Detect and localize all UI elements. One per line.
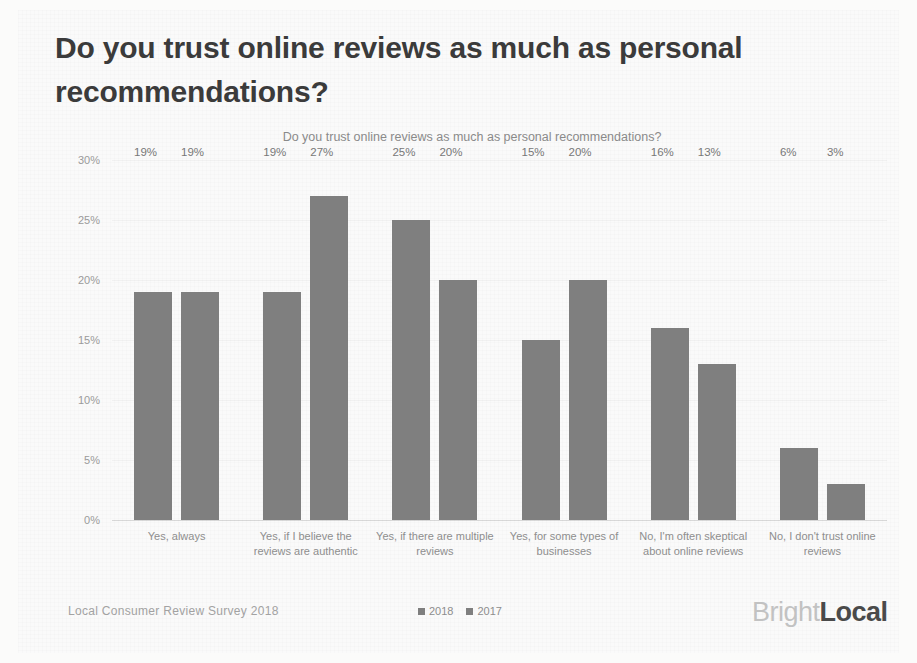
bar-2017[interactable]: 3% <box>827 484 865 520</box>
bar-group: 19%27% <box>241 160 370 520</box>
bar-column[interactable]: 20% <box>569 160 607 520</box>
bar-column[interactable]: 19% <box>181 160 219 520</box>
slide-canvas: Do you trust online reviews as much as p… <box>0 0 917 663</box>
bar-group: 6%3% <box>758 160 887 520</box>
bar-2017[interactable]: 19% <box>181 292 219 520</box>
x-axis-label: Yes, if there are multiple reviews <box>370 529 499 559</box>
chart-legend: 20182017 <box>418 605 502 617</box>
bar-value-label: 19% <box>134 146 157 158</box>
y-axis-tick-label: 15% <box>78 334 100 346</box>
bar-column[interactable]: 27% <box>310 160 348 520</box>
legend-item-2018[interactable]: 2018 <box>418 605 453 617</box>
chart-title: Do you trust online reviews as much as p… <box>237 130 707 144</box>
bar-column[interactable]: 20% <box>439 160 477 520</box>
x-axis-category-labels: Yes, alwaysYes, if I believe the reviews… <box>112 529 887 591</box>
bar-value-label: 27% <box>310 146 333 158</box>
y-axis-tick-label: 5% <box>84 454 100 466</box>
page-title: Do you trust online reviews as much as p… <box>55 26 845 114</box>
bar-group: 15%20% <box>500 160 629 520</box>
bar-column[interactable]: 13% <box>698 160 736 520</box>
legend-swatch-icon <box>418 608 425 615</box>
bar-2018[interactable]: 15% <box>522 340 560 520</box>
x-axis-label: Yes, if I believe the reviews are authen… <box>241 529 370 559</box>
y-axis-tick-label: 20% <box>78 274 100 286</box>
bar-2018[interactable]: 25% <box>392 220 430 520</box>
bar-group: 16%13% <box>629 160 758 520</box>
y-axis-tick-label: 25% <box>78 214 100 226</box>
bar-column[interactable]: 3% <box>827 160 865 520</box>
bar-value-label: 16% <box>651 146 674 158</box>
bar-column[interactable]: 25% <box>392 160 430 520</box>
bar-2017[interactable]: 27% <box>310 196 348 520</box>
y-axis-tick-label: 30% <box>78 154 100 166</box>
bar-group: 25%20% <box>370 160 499 520</box>
legend-label: 2017 <box>477 605 501 617</box>
bar-value-label: 19% <box>263 146 286 158</box>
y-axis-tick-label: 0% <box>84 514 100 526</box>
bar-2017[interactable]: 20% <box>569 280 607 520</box>
bar-2017[interactable]: 13% <box>698 364 736 520</box>
bar-column[interactable]: 15% <box>522 160 560 520</box>
x-axis-label: No, I'm often skeptical about online rev… <box>629 529 758 559</box>
bar-2018[interactable]: 6% <box>780 448 818 520</box>
x-axis-label: Yes, always <box>112 529 241 544</box>
bar-group: 19%19% <box>112 160 241 520</box>
bar-value-label: 19% <box>181 146 204 158</box>
bar-value-label: 20% <box>569 146 592 158</box>
bar-value-label: 15% <box>522 146 545 158</box>
bar-column[interactable]: 16% <box>651 160 689 520</box>
y-axis-tick-label: 10% <box>78 394 100 406</box>
legend-label: 2018 <box>429 605 453 617</box>
bar-column[interactable]: 19% <box>263 160 301 520</box>
bar-column[interactable]: 19% <box>134 160 172 520</box>
bar-value-label: 13% <box>698 146 721 158</box>
x-axis-line <box>112 520 887 521</box>
bar-value-label: 3% <box>827 146 844 158</box>
legend-item-2017[interactable]: 2017 <box>466 605 501 617</box>
x-axis-label: No, I don't trust online reviews <box>758 529 887 559</box>
x-axis-label: Yes, for some types of businesses <box>500 529 629 559</box>
legend-swatch-icon <box>466 608 473 615</box>
bar-2018[interactable]: 19% <box>263 292 301 520</box>
brightlocal-logo: BrightLocal <box>752 596 888 628</box>
bar-2018[interactable]: 19% <box>134 292 172 520</box>
bar-column[interactable]: 6% <box>780 160 818 520</box>
chart-plot-area: 0%5%10%15%20%25%30%19%19%19%27%25%20%15%… <box>112 160 887 520</box>
bar-value-label: 20% <box>439 146 462 158</box>
logo-text-local: Local <box>820 597 888 627</box>
bar-value-label: 25% <box>392 146 415 158</box>
source-caption: Local Consumer Review Survey 2018 <box>68 604 279 618</box>
bar-2017[interactable]: 20% <box>439 280 477 520</box>
bar-value-label: 6% <box>780 146 797 158</box>
bar-2018[interactable]: 16% <box>651 328 689 520</box>
logo-text-bright: Bright <box>752 597 820 627</box>
